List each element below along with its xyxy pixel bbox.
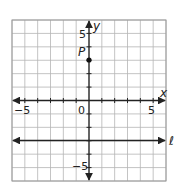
tick-label-y-5: 5 (79, 28, 86, 41)
line-l-label: ℓ (168, 134, 174, 148)
tick-label-x-neg5: −5 (14, 104, 30, 117)
tick-label-x-5: 5 (148, 104, 155, 117)
y-axis-label: y (92, 19, 101, 33)
coordinate-plane-figure: P x y ℓ −5 0 5 5 −5 (0, 0, 182, 188)
point-p (86, 57, 91, 62)
x-axis-label: x (159, 86, 168, 100)
point-p-label: P (78, 45, 86, 59)
tick-label-origin: 0 (78, 104, 85, 117)
tick-label-y-neg5: −5 (72, 160, 88, 173)
